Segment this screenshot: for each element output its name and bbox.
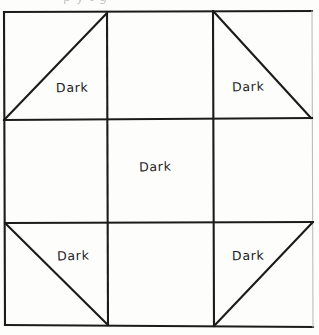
diagonal-bottom-left [6, 224, 108, 325]
cell-label-top-right: Dark [232, 78, 265, 94]
grid-vline-2 [213, 11, 214, 326]
border-left [4, 12, 5, 325]
grid-hline-1 [4, 118, 312, 120]
cell-label-bottom-left: Dark [57, 247, 90, 263]
cell-label-center: Dark [139, 159, 172, 175]
border-top [4, 11, 312, 12]
cell-label-bottom-right: Dark [232, 248, 265, 264]
cell-label-top-left: Dark [56, 80, 89, 96]
grid-vline-1 [107, 12, 108, 325]
border-bottom [5, 325, 313, 327]
border-right [312, 11, 313, 327]
diagonal-top-left [5, 13, 107, 119]
diagonal-bottom-right [214, 223, 312, 326]
diagonal-top-right [214, 12, 311, 118]
quilt-block-diagram: p y t g Dark Dark Dark Dark Dark [0, 0, 319, 335]
grid-hline-2 [5, 222, 313, 223]
